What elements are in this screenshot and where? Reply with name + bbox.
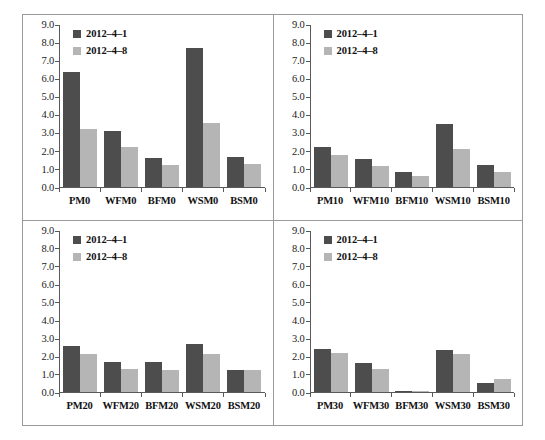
legend-item-series2: 2012–4–8	[73, 252, 127, 263]
bar-WFM30-series1	[355, 363, 372, 392]
y-tick-mark	[306, 231, 310, 232]
x-label-BFM30: BFM30	[391, 397, 432, 415]
plot-area-bottom-left: 9.08.07.06.05.04.03.02.01.00.0PM20WFM20B…	[23, 221, 273, 425]
x-axis-labels: PM20WFM20BFM20WSM20BSM20	[59, 397, 265, 415]
bar-PM30-series2	[331, 353, 348, 392]
legend-swatch-icon	[324, 47, 332, 55]
x-label-BFM0: BFM0	[141, 192, 182, 210]
y-tick-mark	[306, 169, 310, 170]
bar-WSM30-series2	[453, 354, 470, 392]
bar-WFM0-series1	[104, 131, 121, 187]
panel-grid: 9.08.07.06.05.04.03.02.01.00.0PM0WFM0BFM…	[22, 14, 523, 426]
bar-PM20-series2	[80, 354, 97, 392]
y-tick-mark	[306, 133, 310, 134]
x-label-PM30: PM30	[310, 397, 351, 415]
legend-swatch-icon	[73, 30, 81, 38]
plot-area-top-right: 9.08.07.06.05.04.03.02.01.00.0PM10WFM10B…	[274, 15, 523, 220]
x-label-PM20: PM20	[59, 397, 100, 415]
bar-BSM30-series2	[494, 379, 511, 392]
y-tick-mark	[306, 61, 310, 62]
y-tick-mark	[306, 151, 310, 152]
x-tick-mark	[265, 188, 266, 192]
y-tick-mark	[306, 285, 310, 286]
bar-BFM20-series1	[145, 362, 162, 392]
legend-swatch-icon	[73, 236, 81, 244]
plot-area-bottom-right: 9.08.07.06.05.04.03.02.01.00.0PM30WFM30B…	[274, 221, 523, 425]
y-tick-mark	[306, 79, 310, 80]
bar-WSM10-series1	[436, 124, 453, 187]
y-tick-mark	[306, 374, 310, 375]
legend-swatch-icon	[324, 253, 332, 261]
legend-item-series2: 2012–4–8	[324, 252, 378, 263]
bar-WFM30-series2	[372, 369, 389, 392]
y-tick-mark	[55, 285, 59, 286]
plot-area-top-left: 9.08.07.06.05.04.03.02.01.00.0PM0WFM0BFM…	[23, 15, 273, 220]
y-tick-mark	[55, 321, 59, 322]
x-label-WFM0: WFM0	[100, 192, 141, 210]
y-tick-mark	[306, 266, 310, 267]
y-tick-mark	[306, 339, 310, 340]
x-label-BSM10: BSM10	[473, 192, 514, 210]
x-label-WSM10: WSM10	[432, 192, 473, 210]
y-tick-mark	[55, 133, 59, 134]
bar-PM20-series1	[63, 346, 80, 392]
y-tick-mark	[306, 357, 310, 358]
y-tick-mark	[55, 25, 59, 26]
bar-group-WSM10	[433, 25, 474, 187]
legend-item-series1: 2012–4–1	[73, 235, 127, 246]
legend-swatch-icon	[73, 47, 81, 55]
y-tick-mark	[306, 97, 310, 98]
bar-PM0-series2	[80, 129, 97, 188]
y-tick-mark	[55, 43, 59, 44]
legend-bottom-left: 2012–4–12012–4–8	[73, 235, 127, 262]
chart-panel-bottom-right: 9.08.07.06.05.04.03.02.01.00.0PM30WFM30B…	[273, 220, 524, 426]
y-tick-mark	[55, 248, 59, 249]
legend-label: 2012–4–8	[86, 252, 127, 263]
y-tick-mark	[306, 43, 310, 44]
bar-BSM10-series1	[477, 165, 494, 188]
x-label-WSM0: WSM0	[182, 192, 223, 210]
bar-WSM30-series1	[436, 350, 453, 392]
legend-top-right: 2012–4–12012–4–8	[324, 29, 378, 56]
chart-panel-top-left: 9.08.07.06.05.04.03.02.01.00.0PM0WFM0BFM…	[22, 14, 273, 220]
bar-WFM0-series2	[121, 147, 138, 188]
y-tick-mark	[55, 231, 59, 232]
x-label-WFM20: WFM20	[100, 397, 141, 415]
bar-group-BFM30	[392, 231, 433, 392]
bar-WFM20-series1	[104, 362, 121, 392]
x-label-PM10: PM10	[310, 192, 351, 210]
bar-BFM20-series2	[162, 370, 179, 392]
bar-WSM10-series2	[453, 149, 470, 187]
legend-item-series2: 2012–4–8	[324, 46, 378, 57]
x-label-WSM30: WSM30	[432, 397, 473, 415]
bar-BFM0-series1	[145, 158, 162, 187]
legend-swatch-icon	[324, 236, 332, 244]
x-label-BFM20: BFM20	[141, 397, 182, 415]
x-axis-labels: PM0WFM0BFM0WSM0BSM0	[59, 192, 265, 210]
y-tick-mark	[55, 266, 59, 267]
legend-bottom-right: 2012–4–12012–4–8	[324, 235, 378, 262]
bar-PM0-series1	[63, 72, 80, 187]
x-label-WFM10: WFM10	[350, 192, 391, 210]
bar-group-WSM0	[183, 25, 224, 187]
y-tick-mark	[55, 169, 59, 170]
bar-WSM0-series1	[186, 48, 203, 187]
legend-label: 2012–4–8	[337, 46, 378, 57]
legend-item-series1: 2012–4–1	[73, 29, 127, 40]
bar-group-BSM30	[473, 231, 514, 392]
legend-label: 2012–4–8	[86, 46, 127, 57]
bar-group-BFM0	[142, 25, 183, 187]
legend-label: 2012–4–1	[337, 235, 378, 246]
bar-BSM10-series2	[494, 172, 511, 187]
y-tick-mark	[306, 115, 310, 116]
bar-group-BFM20	[142, 231, 183, 392]
y-tick-mark	[55, 374, 59, 375]
bar-BSM0-series1	[227, 157, 244, 187]
legend-label: 2012–4–1	[337, 29, 378, 40]
chart-panel-bottom-left: 9.08.07.06.05.04.03.02.01.00.0PM20WFM20B…	[22, 220, 273, 426]
legend-label: 2012–4–8	[337, 252, 378, 263]
bar-PM30-series1	[314, 349, 331, 392]
bar-WFM10-series2	[372, 166, 389, 187]
y-tick-mark	[55, 151, 59, 152]
x-axis-line	[310, 187, 515, 188]
